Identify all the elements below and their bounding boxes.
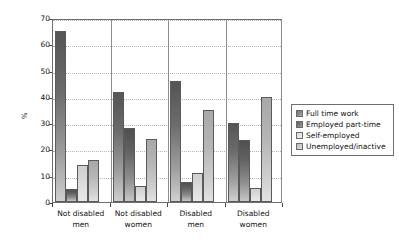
y-tick-label: 60 <box>26 41 50 49</box>
x-tick-label: Not disabledmen <box>52 209 110 230</box>
bar-group <box>168 20 226 202</box>
x-axis-tick-marks <box>52 203 282 208</box>
bar[interactable] <box>113 92 124 202</box>
x-tick-mark <box>167 203 168 207</box>
bar[interactable] <box>181 182 192 202</box>
legend-swatch-unemployed-inactive <box>296 143 303 150</box>
legend-label: Employed part-time <box>306 120 381 129</box>
x-tick-mark <box>52 203 53 207</box>
bar[interactable] <box>261 97 272 202</box>
x-tick-label-line: men <box>52 220 110 231</box>
bar-group <box>226 20 284 202</box>
bar[interactable] <box>135 186 146 202</box>
legend-item[interactable]: Unemployed/inactive <box>296 141 390 152</box>
bar-group <box>111 20 169 202</box>
y-axis-tick-labels: 010203040506070 <box>24 19 50 203</box>
legend-item[interactable]: Full time work <box>296 108 390 119</box>
legend-item[interactable]: Employed part-time <box>296 119 390 130</box>
plot-area <box>52 19 282 203</box>
bar[interactable] <box>239 140 250 202</box>
legend-swatch-employed-part-time <box>296 121 303 128</box>
chart-legend: Full time work Employed part-time Self-e… <box>291 104 394 156</box>
legend-item[interactable]: Self-employed <box>296 130 390 141</box>
legend-swatch-self-employed <box>296 132 303 139</box>
bar[interactable] <box>192 173 203 202</box>
x-tick-label-line: Disabled <box>167 209 225 220</box>
legend-label: Unemployed/inactive <box>306 142 386 151</box>
y-tick-label: 20 <box>26 146 50 154</box>
bar[interactable] <box>66 189 77 202</box>
y-tick-label: 40 <box>26 94 50 102</box>
legend-label: Self-employed <box>306 131 360 140</box>
plot-inner <box>53 20 281 202</box>
bar[interactable] <box>228 123 239 202</box>
y-tick-label: 0 <box>26 199 50 207</box>
legend-swatch-full-time-work <box>296 110 303 117</box>
bar[interactable] <box>170 81 181 202</box>
x-tick-label-line: women <box>110 220 168 231</box>
x-tick-label-line: Not disabled <box>52 209 110 220</box>
x-tick-label: Disabledmen <box>167 209 225 230</box>
bar[interactable] <box>250 188 261 202</box>
bar[interactable] <box>88 160 99 202</box>
x-tick-label: Not disabledwomen <box>110 209 168 230</box>
y-tick-label: 70 <box>26 15 50 23</box>
x-tick-label-line: Not disabled <box>110 209 168 220</box>
x-tick-label-line: men <box>167 220 225 231</box>
x-tick-label-line: Disabled <box>225 209 283 220</box>
x-tick-mark <box>282 203 283 207</box>
y-tick-label: 30 <box>26 120 50 128</box>
bar[interactable] <box>55 31 66 202</box>
x-tick-mark <box>225 203 226 207</box>
x-axis-tick-labels: Not disabledmenNot disabledwomenDisabled… <box>52 209 282 239</box>
x-tick-label-line: women <box>225 220 283 231</box>
bar[interactable] <box>203 110 214 202</box>
bar[interactable] <box>146 139 157 202</box>
x-tick-mark <box>110 203 111 207</box>
y-tick-label: 10 <box>26 173 50 181</box>
x-tick-label: Disabledwomen <box>225 209 283 230</box>
bar[interactable] <box>124 128 135 202</box>
bar-chart-figure: % 010203040506070 Not disabledmenNot dis… <box>0 0 399 246</box>
legend-label: Full time work <box>306 109 359 118</box>
bar-group <box>53 20 111 202</box>
y-tick-label: 50 <box>26 68 50 76</box>
bar[interactable] <box>77 165 88 202</box>
